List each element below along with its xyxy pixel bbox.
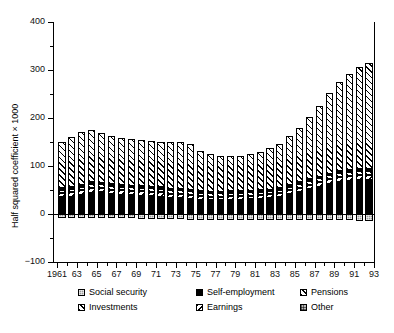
bar-segment-self-employment (98, 192, 105, 214)
bar-segment-earnings (187, 195, 194, 199)
bar-segment-earnings (157, 192, 164, 196)
legend-item: Earnings (196, 303, 243, 312)
bar-segment-earnings (78, 190, 85, 194)
bar-segment-other (128, 186, 135, 188)
legend-label: Other (311, 303, 334, 312)
bar-segment-earnings (286, 190, 293, 194)
bar-group (88, 0, 95, 333)
bar-group (128, 0, 135, 333)
bar-segment-earnings (118, 190, 125, 194)
bar-segment-social-security (227, 214, 234, 220)
bar-segment-self-employment (108, 194, 115, 214)
bar-segment-social-security (157, 214, 164, 219)
bar-segment-social-security (346, 214, 353, 220)
bar-segment-pensions (237, 156, 244, 191)
bar-group (118, 0, 125, 333)
bar-segment-pensions (78, 132, 85, 185)
bar-segment-other (68, 187, 75, 189)
bar-group (336, 0, 343, 333)
legend-swatch-icon (300, 304, 307, 311)
bar-segment-social-security (138, 214, 145, 219)
bar-segment-pensions (365, 63, 372, 170)
bar-segment-other (187, 190, 194, 192)
bar-segment-earnings (237, 196, 244, 199)
bar-segment-pensions (68, 137, 75, 187)
bar-segment-pensions (177, 142, 184, 189)
bar-segment-pensions (346, 74, 353, 170)
bar-segment-investments (177, 190, 184, 194)
bar-group (326, 0, 333, 333)
bar-segment-self-employment (247, 199, 254, 214)
bar-segment-earnings (108, 190, 115, 194)
bar-segment-self-employment (356, 180, 363, 214)
bar-group (356, 0, 363, 333)
bar-segment-social-security (187, 214, 194, 220)
bar-segment-pensions (88, 130, 95, 183)
legend-swatch-icon (196, 304, 203, 311)
bar-segment-other (58, 188, 65, 190)
bar-segment-other (237, 191, 244, 193)
bar-segment-other (356, 169, 363, 171)
bar-segment-earnings (336, 177, 343, 182)
bar-segment-other (217, 192, 224, 194)
bar-group (167, 0, 174, 333)
bar-group (98, 0, 105, 333)
legend-item: Pensions (300, 288, 348, 297)
bar-segment-investments (68, 189, 75, 193)
legend-label: Self-employment (207, 288, 275, 297)
bar-segment-other (177, 189, 184, 191)
bar-segment-social-security (247, 214, 254, 220)
bar-group (276, 0, 283, 333)
bar-segment-self-employment (167, 198, 174, 214)
bar-segment-pensions (227, 156, 234, 191)
bar-segment-earnings (365, 175, 372, 180)
bar-group (207, 0, 214, 333)
bar-group (346, 0, 353, 333)
bar-group (365, 0, 372, 333)
bar-segment-investments (128, 187, 135, 191)
bar-segment-pensions (217, 156, 224, 192)
bar-segment-pensions (276, 144, 283, 188)
bar-segment-investments (118, 187, 125, 191)
legend-swatch-icon (78, 304, 85, 311)
bar-segment-self-employment (316, 187, 323, 214)
bar-segment-earnings (138, 191, 145, 195)
bar-segment-earnings (98, 188, 105, 192)
bar-segment-self-employment (118, 195, 125, 214)
bar-segment-self-employment (217, 200, 224, 214)
bar-segment-investments (365, 171, 372, 175)
bar-segment-other (306, 179, 313, 181)
bar-segment-pensions (187, 144, 194, 189)
bar-segment-social-security (217, 214, 224, 220)
bar-segment-investments (157, 189, 164, 193)
bar-segment-investments (306, 181, 313, 185)
bar-group (237, 0, 244, 333)
bar-segment-other (108, 184, 115, 186)
bar-segment-self-employment (306, 189, 313, 214)
bar-segment-earnings (356, 175, 363, 180)
bar-segment-other (316, 177, 323, 179)
bar-group (157, 0, 164, 333)
bar-group (78, 0, 85, 333)
legend-swatch-icon (78, 289, 85, 296)
bar-segment-pensions (98, 133, 105, 182)
legend-label: Investments (89, 303, 138, 312)
bar-segment-other (326, 174, 333, 176)
bar-group (187, 0, 194, 333)
bar-segment-social-security (128, 214, 135, 218)
bar-segment-social-security (316, 214, 323, 220)
bar-segment-social-security (365, 214, 372, 221)
bar-segment-other (276, 188, 283, 190)
bar-group (217, 0, 224, 333)
bar-group (266, 0, 273, 333)
bar-segment-self-employment (296, 192, 303, 214)
bar-segment-social-security (108, 214, 115, 218)
bar-segment-self-employment (68, 197, 75, 214)
bar-segment-pensions (286, 136, 293, 185)
bar-group (306, 0, 313, 333)
bar-segment-self-employment (276, 197, 283, 214)
bar-segment-self-employment (227, 200, 234, 214)
bar-segment-other (148, 187, 155, 189)
bar-segment-social-security (197, 214, 204, 220)
bar-segment-self-employment (128, 195, 135, 214)
